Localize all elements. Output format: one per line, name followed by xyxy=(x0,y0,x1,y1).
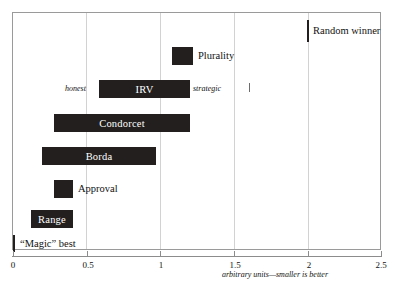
bar-irv: IRV xyxy=(99,80,190,98)
voting-methods-bar-chart: Random winner Plurality honest IRV strat… xyxy=(0,0,395,285)
irv-right-note: strategic xyxy=(193,80,221,98)
x-axis-tick-2 xyxy=(308,251,309,257)
stray-tick-icon xyxy=(249,83,250,92)
bar-inner-label-approval xyxy=(54,180,73,198)
gridline-2 xyxy=(308,13,309,249)
row-label-irv: IRV xyxy=(99,80,190,98)
row-label-plurality: Plurality xyxy=(198,47,234,65)
x-axis-label-1: 1 xyxy=(159,260,164,270)
bar-condorcet: Condorcet xyxy=(54,114,190,132)
x-axis-tick-2.5 xyxy=(381,251,382,257)
bar-inner-label-plurality xyxy=(172,47,193,65)
x-axis-tick-0.5 xyxy=(87,251,88,257)
bar-approval xyxy=(54,180,73,198)
marker-random-winner xyxy=(307,20,309,42)
x-axis-tick-1.5 xyxy=(234,251,235,257)
plot-area: Random winner Plurality honest IRV strat… xyxy=(12,12,381,250)
x-axis-tick-0 xyxy=(13,251,14,257)
x-axis-tick-1 xyxy=(160,251,161,257)
x-axis-label-1.5: 1.5 xyxy=(229,260,240,270)
row-label-random-winner: Random winner xyxy=(313,24,380,38)
row-label-approval: Approval xyxy=(78,180,118,198)
bar-range: Range xyxy=(31,210,73,228)
x-axis-label-2.5: 2.5 xyxy=(375,260,386,270)
bar-borda: Borda xyxy=(42,147,156,165)
x-axis-label-0: 0 xyxy=(11,260,16,270)
row-label-magic-best: “Magic” best xyxy=(20,237,76,251)
irv-left-note: honest xyxy=(65,80,86,98)
row-label-condorcet: Condorcet xyxy=(54,114,190,132)
x-axis-line xyxy=(12,256,381,257)
row-label-borda: Borda xyxy=(42,147,156,165)
marker-magic-best xyxy=(13,235,15,252)
bar-plurality xyxy=(172,47,193,65)
row-label-range: Range xyxy=(31,210,73,228)
x-axis-label-0.5: 0.5 xyxy=(82,260,93,270)
x-axis-caption: arbitrary units—smaller is better xyxy=(222,270,328,279)
x-axis-label-2: 2 xyxy=(307,260,312,270)
